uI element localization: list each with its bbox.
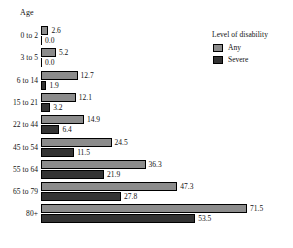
bar-rect-severe bbox=[41, 214, 195, 223]
category-label: 3 to 5 bbox=[0, 53, 38, 62]
bar-rect-any bbox=[41, 26, 48, 35]
bar-severe[interactable]: 21.9 bbox=[41, 170, 104, 179]
bar-severe[interactable]: 0.0 bbox=[41, 36, 43, 45]
bar-rect-any bbox=[41, 48, 56, 57]
bar-rect-severe bbox=[41, 125, 59, 134]
bar-rect-any bbox=[41, 160, 146, 169]
category-label: 15 to 21 bbox=[0, 98, 38, 107]
bar-value-label: 5.2 bbox=[57, 48, 68, 57]
category-label: 65 to 79 bbox=[0, 187, 38, 196]
bar-any[interactable]: 2.6 bbox=[41, 26, 48, 35]
bar-value-label: 47.3 bbox=[178, 182, 193, 191]
bar-rect-severe bbox=[41, 81, 46, 90]
chart-legend: Level of disability Any Severe bbox=[212, 30, 292, 66]
bar-any[interactable]: 47.3 bbox=[41, 182, 177, 191]
legend-item-severe[interactable]: Severe bbox=[212, 54, 292, 65]
legend-label-any: Any bbox=[228, 43, 241, 52]
category-label: 55 to 64 bbox=[0, 165, 38, 174]
category-label: 45 to 54 bbox=[0, 143, 38, 152]
legend-item-any[interactable]: Any bbox=[212, 42, 292, 53]
bar-rect-any bbox=[41, 138, 112, 147]
category-label: 22 to 44 bbox=[0, 120, 38, 129]
bar-value-label: 0.0 bbox=[43, 36, 54, 45]
bar-severe[interactable]: 3.2 bbox=[41, 103, 50, 112]
bar-value-label: 11.5 bbox=[75, 148, 90, 157]
bar-value-label: 2.6 bbox=[49, 26, 60, 35]
bar-group-row: 6 to 1412.71.9 bbox=[0, 71, 293, 93]
bar-value-label: 21.9 bbox=[105, 170, 120, 179]
bar-value-label: 6.4 bbox=[60, 125, 71, 134]
bar-any[interactable]: 14.9 bbox=[41, 115, 84, 124]
bar-rect-severe bbox=[41, 170, 104, 179]
bar-rect-severe bbox=[41, 103, 50, 112]
bar-severe[interactable]: 27.8 bbox=[41, 192, 121, 201]
bar-severe[interactable]: 11.5 bbox=[41, 148, 74, 157]
bar-value-label: 3.2 bbox=[51, 103, 62, 112]
legend-label-severe: Severe bbox=[228, 55, 248, 64]
bar-any[interactable]: 12.7 bbox=[41, 71, 78, 80]
category-label: 6 to 14 bbox=[0, 76, 38, 85]
category-label: 80+ bbox=[0, 209, 38, 218]
category-label: 0 to 2 bbox=[0, 31, 38, 40]
bar-group-row: 55 to 6436.321.9 bbox=[0, 160, 293, 182]
legend-swatch-any-icon bbox=[213, 44, 223, 52]
bar-group-row: 65 to 7947.327.8 bbox=[0, 182, 293, 204]
bar-value-label: 27.8 bbox=[122, 192, 137, 201]
bar-group-row: 45 to 5424.511.5 bbox=[0, 138, 293, 160]
bar-chart: Age 0 to 22.60.03 to 55.20.06 to 1412.71… bbox=[0, 0, 293, 248]
bar-rect-any bbox=[41, 115, 84, 124]
bar-value-label: 12.7 bbox=[79, 71, 94, 80]
bar-rect-any bbox=[41, 204, 247, 213]
bar-severe[interactable]: 53.5 bbox=[41, 214, 195, 223]
bar-value-label: 12.1 bbox=[77, 93, 92, 102]
bar-any[interactable]: 36.3 bbox=[41, 160, 146, 169]
legend-swatch-severe-icon bbox=[213, 56, 223, 64]
bar-rect-any bbox=[41, 182, 177, 191]
bar-value-label: 53.5 bbox=[196, 214, 211, 223]
bar-any[interactable]: 71.5 bbox=[41, 204, 247, 213]
bar-group-row: 80+71.553.5 bbox=[0, 204, 293, 226]
bar-rect-severe bbox=[41, 192, 121, 201]
bar-group-row: 22 to 4414.96.4 bbox=[0, 115, 293, 137]
bar-value-label: 36.3 bbox=[147, 160, 162, 169]
bar-any[interactable]: 5.2 bbox=[41, 48, 56, 57]
bar-severe[interactable]: 1.9 bbox=[41, 81, 46, 90]
bar-value-label: 1.9 bbox=[47, 81, 58, 90]
bar-value-label: 24.5 bbox=[113, 138, 128, 147]
bar-rect-any bbox=[41, 71, 78, 80]
bar-value-label: 0.0 bbox=[43, 58, 54, 67]
bar-value-label: 71.5 bbox=[248, 204, 263, 213]
bar-severe[interactable]: 0.0 bbox=[41, 58, 43, 67]
bar-rect-severe bbox=[41, 148, 74, 157]
bar-value-label: 14.9 bbox=[85, 115, 100, 124]
bar-group-row: 15 to 2112.13.2 bbox=[0, 93, 293, 115]
axis-group-title: Age bbox=[20, 8, 34, 17]
legend-title: Level of disability bbox=[212, 30, 292, 39]
bar-any[interactable]: 24.5 bbox=[41, 138, 112, 147]
bar-any[interactable]: 12.1 bbox=[41, 93, 76, 102]
bar-severe[interactable]: 6.4 bbox=[41, 125, 59, 134]
bar-rect-any bbox=[41, 93, 76, 102]
